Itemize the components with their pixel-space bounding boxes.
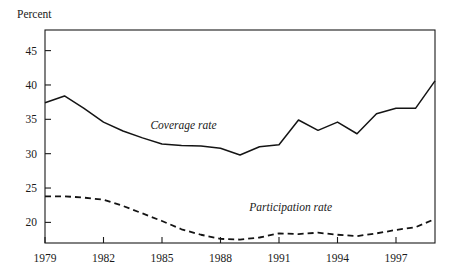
y-tick-label: 35 — [26, 113, 38, 125]
x-tick-label: 1982 — [92, 252, 115, 264]
y-tick-label: 45 — [26, 45, 38, 57]
series-label-coverage-rate: Coverage rate — [150, 119, 216, 132]
chart-background — [0, 0, 451, 280]
y-axis-title: Percent — [17, 8, 52, 20]
x-tick-label: 1985 — [151, 252, 174, 264]
line-chart: Percent 202530354045 1979198219851988199… — [0, 0, 451, 280]
y-tick-label: 30 — [26, 148, 38, 160]
y-tick-label: 40 — [26, 79, 38, 91]
x-tick-label: 1994 — [326, 252, 349, 264]
y-tick-label: 20 — [26, 216, 38, 228]
chart-figure: Percent 202530354045 1979198219851988199… — [0, 0, 451, 280]
x-tick-label: 1997 — [385, 252, 408, 264]
x-tick-label: 1988 — [209, 252, 232, 264]
series-label-participation-rate: Participation rate — [248, 201, 332, 214]
y-tick-label: 25 — [26, 182, 38, 194]
x-tick-label: 1979 — [34, 252, 57, 264]
x-tick-label: 1991 — [268, 252, 291, 264]
